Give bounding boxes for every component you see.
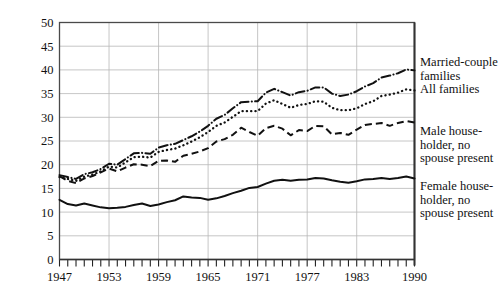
- legend-label-female-householder: Female house- holder, no spouse present: [420, 180, 493, 221]
- svg-text:1983: 1983: [344, 270, 369, 284]
- svg-text:35: 35: [41, 87, 54, 101]
- svg-text:1953: 1953: [97, 270, 122, 284]
- data-series-group: [60, 69, 415, 208]
- svg-text:20: 20: [41, 158, 54, 172]
- svg-text:45: 45: [41, 40, 54, 54]
- series-line-2: [60, 121, 415, 183]
- svg-text:1947: 1947: [47, 270, 72, 284]
- svg-text:40: 40: [41, 63, 54, 77]
- series-line-3: [60, 177, 415, 209]
- svg-text:1990: 1990: [402, 270, 427, 284]
- svg-text:15: 15: [41, 182, 54, 196]
- series-line-1: [60, 89, 415, 180]
- legend-label-married-couple-families: Married-couple families: [420, 56, 498, 83]
- series-line-0: [60, 69, 415, 178]
- legend-label-male-householder: Male house- holder, no spouse present: [420, 125, 493, 166]
- svg-text:50: 50: [41, 16, 54, 30]
- svg-text:25: 25: [41, 134, 54, 148]
- svg-text:30: 30: [41, 111, 54, 125]
- svg-text:10: 10: [41, 206, 54, 220]
- x-axis-ticks: 19471953195919651971197719831990: [47, 260, 427, 284]
- svg-text:5: 5: [47, 229, 53, 243]
- axis-frame: [60, 23, 415, 266]
- svg-text:1965: 1965: [196, 270, 221, 284]
- svg-text:1971: 1971: [245, 270, 270, 284]
- y-axis-ticks: 05101520253035404550: [41, 16, 54, 267]
- gridlines: [60, 23, 415, 260]
- svg-text:1977: 1977: [295, 270, 320, 284]
- svg-text:0: 0: [47, 253, 53, 267]
- svg-text:1959: 1959: [146, 270, 171, 284]
- legend-label-all-families: All families: [420, 83, 479, 97]
- chart-figure: Thousands of 1990 Dollars 05101520253035…: [0, 0, 502, 297]
